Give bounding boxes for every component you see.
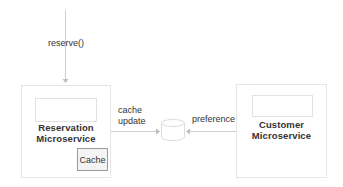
customer-title-line1: Customer [237, 119, 326, 130]
reservation-component-rect [35, 98, 97, 122]
local-cache-label: Cache [79, 155, 105, 165]
cache-update-line1: cache [118, 105, 146, 116]
shared-cache-database-icon [162, 120, 185, 141]
customer-title-line2: Microservice [237, 130, 326, 141]
preference-label: preference [192, 114, 235, 125]
reservation-title-line1: Reservation [22, 122, 110, 133]
customer-component-rect [252, 95, 313, 117]
reservation-microservice-title: Reservation Microservice [22, 122, 110, 144]
preference-arrow [186, 129, 236, 135]
cache-update-line2: update [118, 116, 146, 127]
cache-update-label: cache update [118, 105, 146, 126]
customer-microservice-title: Customer Microservice [237, 119, 326, 141]
reserve-call-label: reserve() [48, 38, 84, 49]
cache-update-arrow [110, 129, 160, 135]
reservation-title-line2: Microservice [22, 133, 110, 144]
local-cache-box: Cache [77, 148, 108, 171]
